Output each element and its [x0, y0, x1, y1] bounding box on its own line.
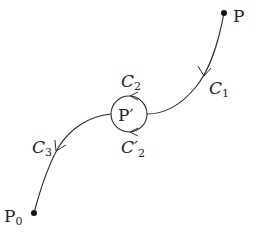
contour-diagram: P P′ P0 C1 C2 C′2 C3	[0, 0, 261, 232]
label-c3: C3	[32, 137, 52, 159]
label-p0: P0	[4, 206, 22, 228]
label-c2: C2	[121, 71, 141, 93]
point-p0	[31, 210, 37, 216]
label-p-prime: P′	[118, 105, 133, 125]
curve-c1	[147, 13, 224, 114]
point-p	[221, 10, 227, 16]
label-c2-prime: C′2	[121, 137, 145, 160]
curve-c3	[34, 114, 111, 213]
label-p: P	[233, 6, 244, 26]
label-c1: C1	[209, 78, 229, 100]
